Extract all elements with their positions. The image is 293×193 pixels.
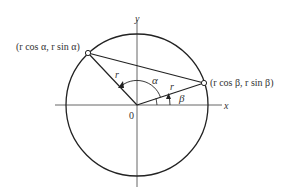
- angle-beta-label: β: [178, 92, 185, 104]
- unit-circle-diagram: y x 0 (r cos α, r sin α) (r cos β, r sin…: [0, 0, 293, 193]
- point-alpha-label: (r cos α, r sin α): [16, 41, 80, 53]
- point-beta-label: (r cos β, r sin β): [210, 77, 274, 89]
- point-alpha-marker: [85, 50, 90, 55]
- radius-alpha-label: r: [115, 69, 119, 80]
- y-axis-label: y: [134, 13, 140, 24]
- x-axis-label: x: [223, 100, 229, 111]
- radius-beta-label: r: [170, 81, 174, 92]
- chord: [88, 53, 204, 83]
- angle-alpha-label: α: [152, 74, 158, 86]
- origin-label: 0: [129, 110, 134, 121]
- angle-alpha-arrowhead: [118, 81, 124, 88]
- point-beta-marker: [201, 80, 206, 85]
- radius-alpha: [88, 53, 137, 105]
